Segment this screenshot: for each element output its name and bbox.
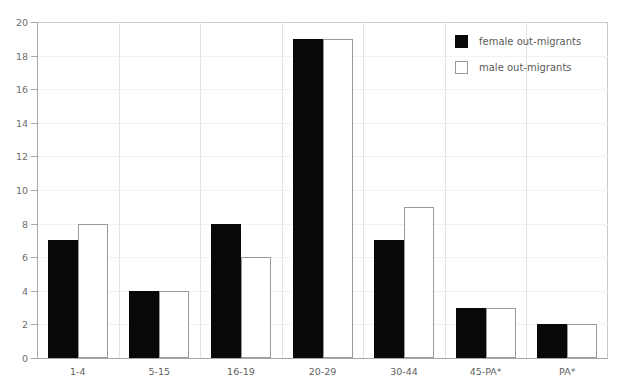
y-tick-2: [31, 324, 37, 325]
x-axis-label-30-44: 30-44: [390, 366, 418, 377]
y-tick-18: [31, 56, 37, 57]
y-tick-0: [31, 358, 37, 359]
bar-female-20-29[interactable]: [293, 39, 323, 358]
y-axis-label-10: 10: [16, 185, 28, 196]
y-axis-label-2: 2: [22, 319, 28, 330]
legend-label-male: male out-migrants: [479, 62, 572, 73]
group-separator-2: [200, 22, 201, 358]
y-axis-label-6: 6: [22, 252, 28, 263]
legend-swatch-male-icon: [455, 61, 468, 74]
bar-female-PA*[interactable]: [537, 324, 567, 358]
y-axis-label-8: 8: [22, 218, 28, 229]
y-axis-label-14: 14: [16, 117, 28, 128]
y-axis-label-16: 16: [16, 84, 28, 95]
legend-item-male[interactable]: male out-migrants: [455, 57, 620, 78]
group-separator-4: [363, 22, 364, 358]
x-axis-label-PA*: PA*: [559, 366, 575, 377]
bar-female-30-44[interactable]: [374, 240, 404, 358]
chart-title: [0, 0, 629, 5]
y-axis-label-4: 4: [22, 285, 28, 296]
x-axis-label-1-4: 1-4: [70, 366, 86, 377]
bar-male-20-29[interactable]: [323, 39, 353, 358]
bar-male-5-15[interactable]: [159, 291, 189, 358]
x-axis-label-5-15: 5-15: [149, 366, 171, 377]
bar-female-1-4[interactable]: [48, 240, 78, 358]
x-axis-label-20-29: 20-29: [309, 366, 337, 377]
y-tick-10: [31, 190, 37, 191]
group-separator-5: [445, 22, 446, 358]
y-tick-14: [31, 123, 37, 124]
bar-male-45-PA*[interactable]: [486, 308, 516, 358]
bar-male-30-44[interactable]: [404, 207, 434, 358]
y-tick-8: [31, 224, 37, 225]
legend-label-female: female out-migrants: [479, 36, 581, 47]
y-tick-12: [31, 156, 37, 157]
chart-legend: female out-migrants male out-migrants: [455, 31, 620, 83]
legend-swatch-female-icon: [455, 35, 468, 48]
y-tick-4: [31, 291, 37, 292]
legend-item-female[interactable]: female out-migrants: [455, 31, 620, 52]
plot-top-rule: [37, 22, 608, 23]
bar-female-16-19[interactable]: [211, 224, 241, 358]
bar-male-PA*[interactable]: [567, 324, 597, 358]
bar-male-1-4[interactable]: [78, 224, 108, 358]
y-axis-label-18: 18: [16, 50, 28, 61]
x-axis-label-16-19: 16-19: [227, 366, 255, 377]
bar-female-5-15[interactable]: [129, 291, 159, 358]
bar-female-45-PA*[interactable]: [456, 308, 486, 358]
y-tick-20: [31, 22, 37, 23]
y-tick-16: [31, 89, 37, 90]
y-axis-label-12: 12: [16, 151, 28, 162]
x-axis-label-45-PA*: 45-PA*: [470, 366, 502, 377]
x-axis-line: [31, 358, 608, 359]
y-axis-label-20: 20: [16, 17, 28, 28]
bar-male-16-19[interactable]: [241, 257, 271, 358]
group-separator-1: [119, 22, 120, 358]
group-separator-3: [282, 22, 283, 358]
y-tick-6: [31, 257, 37, 258]
y-axis-label-0: 0: [22, 353, 28, 364]
